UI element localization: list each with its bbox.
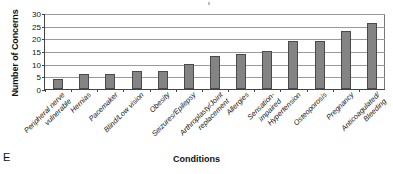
y-tick-label: 30 — [19, 10, 41, 19]
x-tick-label: Peripheral nervevulnerable — [23, 91, 74, 142]
bar-slot — [176, 14, 202, 89]
title-remnant-mark — [208, 2, 210, 5]
bar-slot — [228, 14, 254, 89]
bar[interactable] — [105, 74, 115, 89]
y-tick-label: 20 — [19, 35, 41, 44]
bar-slot — [307, 14, 333, 89]
bar-slot — [333, 14, 359, 89]
bar[interactable] — [184, 64, 194, 89]
y-tick-label: 5 — [19, 73, 41, 82]
x-tick-label-line: Hernias — [69, 91, 93, 115]
bar[interactable] — [132, 71, 142, 89]
x-axis-title: Conditions — [0, 154, 393, 164]
bar[interactable] — [158, 71, 168, 89]
bar[interactable] — [79, 74, 89, 89]
bar[interactable] — [236, 54, 246, 89]
bar-slot — [202, 14, 228, 89]
bar-chart-figure: Number of Concerns 051015202530 Peripher… — [0, 0, 393, 174]
bar-slot — [150, 14, 176, 89]
bar[interactable] — [341, 31, 351, 89]
x-axis-tick-labels: Peripheral nervevulnerableHerniasPacemak… — [44, 91, 385, 153]
plot-area: 051015202530 — [44, 14, 385, 90]
bar-slot — [45, 14, 71, 89]
y-tick-label: 0 — [19, 86, 41, 95]
y-tick-label: 15 — [19, 48, 41, 57]
bar-slot — [71, 14, 97, 89]
y-tick-label: 25 — [19, 22, 41, 31]
bar-series — [45, 14, 385, 89]
x-tick-label: Hernias — [69, 91, 93, 115]
y-tick-label: 10 — [19, 60, 41, 69]
bar[interactable] — [53, 79, 63, 89]
bar-slot — [97, 14, 123, 89]
y-axis-title: Number of Concerns — [10, 6, 20, 101]
bar[interactable] — [367, 23, 377, 89]
bar-slot — [123, 14, 149, 89]
panel-letter: E — [3, 151, 10, 163]
bar-slot — [359, 14, 385, 89]
bar-slot — [280, 14, 306, 89]
bar-slot — [254, 14, 280, 89]
bar[interactable] — [288, 41, 298, 89]
bar[interactable] — [210, 56, 220, 89]
bar[interactable] — [262, 51, 272, 89]
bar[interactable] — [315, 41, 325, 89]
